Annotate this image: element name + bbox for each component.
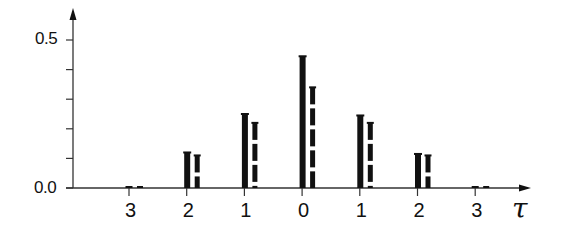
- x-axis-label: τ: [512, 192, 528, 225]
- x-tick-label: 1: [240, 199, 251, 222]
- solid-bar-cap: [241, 113, 249, 115]
- solid-bar-cap: [414, 153, 422, 155]
- dashed-bar-segment: [426, 155, 431, 172]
- dashed-bar-segment: [310, 87, 315, 104]
- x-tick-label: 2: [413, 199, 424, 222]
- x-tick-label: 0: [298, 199, 309, 222]
- axes: [66, 8, 531, 192]
- x-axis-arrow-icon: [519, 185, 531, 192]
- x-tick-label: 2: [183, 199, 194, 222]
- y-ticks: [66, 40, 73, 188]
- bars: [126, 55, 490, 188]
- dashed-bar-segment: [310, 171, 315, 188]
- dashed-bar-segment: [426, 176, 431, 188]
- dashed-bar-segment: [310, 108, 315, 125]
- dashed-bar-segment: [368, 165, 373, 182]
- solid-bar-cap: [299, 55, 307, 57]
- dashed-bar-segment: [252, 144, 257, 161]
- solid-bar: [472, 186, 479, 188]
- dashed-bar-segment: [368, 144, 373, 161]
- dashed-bar-segment: [252, 165, 257, 182]
- chart-canvas: [0, 0, 571, 232]
- dashed-bar-segment: [310, 150, 315, 167]
- y-tick-label-bottom: 0.0: [34, 178, 56, 198]
- dashed-bar-segment: [252, 123, 257, 140]
- dashed-bar: [483, 186, 489, 188]
- solid-bar-cap: [356, 114, 364, 116]
- solid-bar: [242, 114, 248, 188]
- solid-bar: [126, 186, 133, 188]
- dashed-bar-segment: [310, 129, 315, 146]
- solid-bar: [357, 115, 363, 188]
- dashed-bar-segment: [368, 123, 373, 140]
- x-tick-label: 1: [356, 199, 367, 222]
- solid-bar: [184, 152, 190, 188]
- y-tick-label-top: 0.5: [35, 29, 57, 49]
- solid-bar-cap: [183, 151, 191, 153]
- dashed-bar-segment: [252, 186, 257, 188]
- x-tick-label: 3: [125, 199, 136, 222]
- dashed-bar: [137, 186, 143, 188]
- solid-bar: [415, 154, 421, 188]
- y-axis-arrow-icon: [70, 8, 77, 20]
- dashed-bar-segment: [195, 176, 200, 188]
- dashed-bar-segment: [368, 186, 373, 188]
- solid-bar: [300, 56, 306, 188]
- dashed-bar-segment: [195, 155, 200, 172]
- x-tick-label: 3: [471, 199, 482, 222]
- x-ticks: [129, 188, 475, 196]
